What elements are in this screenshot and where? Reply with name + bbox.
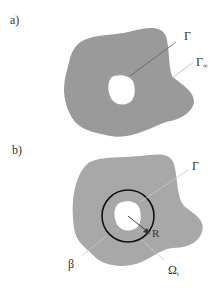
leader-line-gamma-inf — [172, 62, 194, 78]
panel-label-b: b) — [12, 144, 22, 156]
panel-b: b) Γ β R Ωt — [0, 144, 220, 288]
label-gamma: Γ — [192, 160, 199, 172]
panel-label-a: a) — [10, 14, 19, 26]
omega-main: Ω — [168, 263, 177, 277]
domain-diagram-b — [0, 144, 220, 288]
hole — [108, 75, 134, 104]
label-gamma: Γ — [184, 30, 191, 42]
label-omega-t: Ωt — [168, 264, 179, 278]
omega-sub: t — [177, 270, 179, 278]
domain-diagram-a — [0, 0, 220, 144]
label-beta: β — [68, 258, 74, 270]
gamma-inf-main: Γ — [196, 55, 203, 69]
label-gamma-infinity: Γ∞ — [196, 56, 208, 70]
panel-a: a) Γ Γ∞ — [0, 0, 220, 144]
gamma-inf-sub: ∞ — [203, 62, 208, 70]
label-radius: R — [152, 228, 159, 239]
hole — [114, 201, 140, 230]
